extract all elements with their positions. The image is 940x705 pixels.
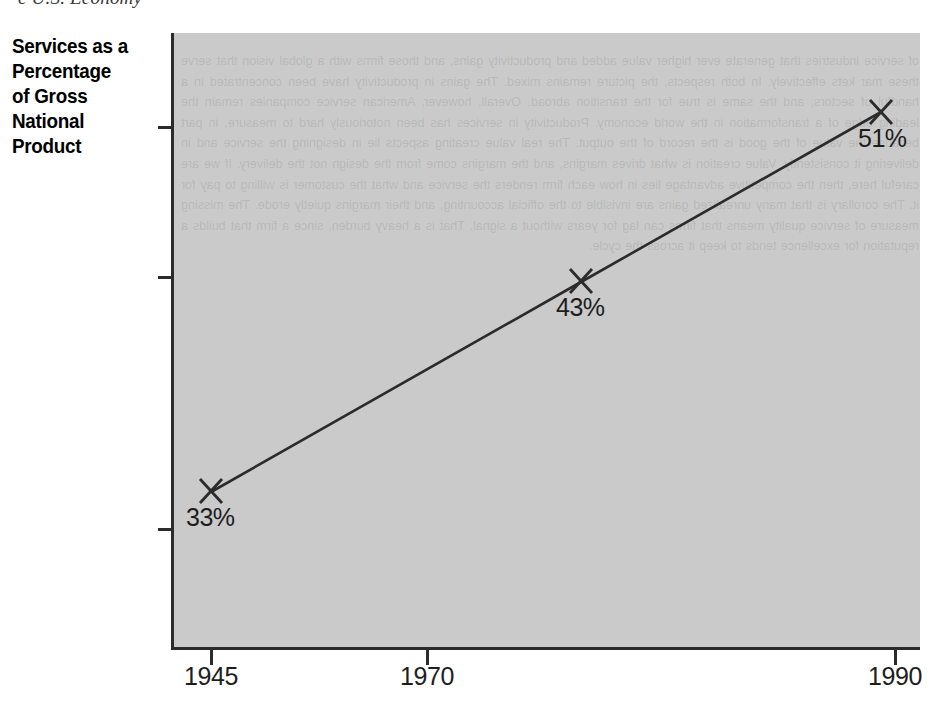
chart-page: e U.S. Economy Services as a Percentage …: [0, 0, 940, 705]
x-axis-line: [171, 647, 920, 650]
chart-title-line: of Gross: [12, 83, 150, 108]
y-axis-tick: [158, 276, 173, 279]
plot-area: of service industries that generate ever…: [173, 33, 920, 648]
chart-title-line: Percentage: [12, 58, 150, 83]
chart-title: Services as a Percentage of Gross Nation…: [12, 33, 150, 158]
data-label-1945: 33%: [186, 503, 235, 532]
data-label-1990: 51%: [858, 124, 907, 153]
y-axis-tick: [158, 528, 173, 531]
data-label-1970: 43%: [556, 293, 605, 322]
background-bleedthrough-text: of service industries that generate ever…: [181, 51, 919, 257]
x-axis-label-1990: 1990: [868, 662, 922, 691]
chart-title-line: Product: [12, 133, 150, 158]
x-axis-label-1945: 1945: [184, 662, 238, 691]
chart-title-line: National: [12, 108, 150, 133]
y-axis-tick: [158, 126, 173, 129]
running-header: e U.S. Economy: [18, 0, 142, 9]
x-axis-label-1970: 1970: [400, 662, 454, 691]
chart-title-line: Services as a: [12, 33, 150, 58]
